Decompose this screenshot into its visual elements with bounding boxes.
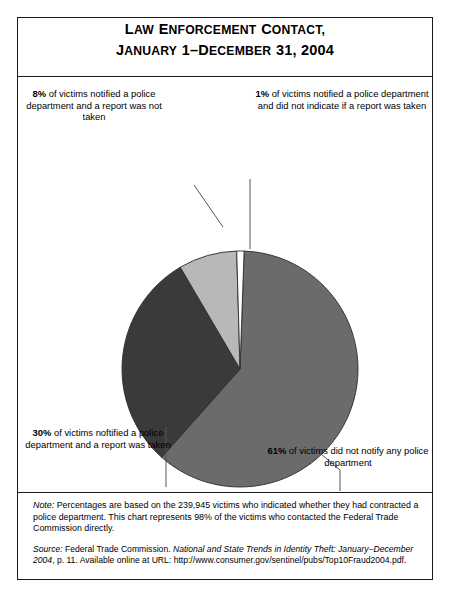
notes-block: Note: Percentages are based on the 239,9…	[33, 500, 419, 567]
source-pre-text: Federal Trade Commission.	[63, 544, 173, 554]
callout-61-percent-value: 61%	[267, 445, 286, 456]
chart-title: LAW ENFORCEMENT CONTACT, JANUARY 1–DECEM…	[18, 19, 432, 61]
callout-61-percent: 61% of victims did not notify any police…	[262, 445, 434, 468]
callout-30-percent: 30% of victims noftified a police depart…	[22, 427, 174, 450]
callout-1-percent-text: of victims notified a police department …	[258, 88, 429, 111]
callout-8-percent-value: 8%	[33, 88, 47, 99]
source-label: Source:	[33, 544, 63, 554]
chart-title-line-1: LAW ENFORCEMENT CONTACT,	[18, 19, 432, 40]
source-post-text: , p. 11. Available online at URL: http:/…	[52, 555, 406, 565]
callout-1-percent: 1% of victims notified a police departme…	[253, 88, 431, 111]
note-label: Note:	[33, 500, 54, 510]
callout-1-percent-value: 1%	[255, 88, 269, 99]
callout-8-percent: 8% of victims notified a police departme…	[24, 88, 164, 123]
callout-61-percent-text: of victims did not notify any police dep…	[286, 445, 428, 468]
source-paragraph: Source: Federal Trade Commission. Nation…	[33, 544, 419, 567]
callout-30-percent-value: 30%	[33, 427, 52, 438]
note-text: Percentages are based on the 239,945 vic…	[33, 500, 418, 533]
leader-line-8	[194, 185, 223, 227]
note-paragraph: Note: Percentages are based on the 239,9…	[33, 500, 419, 535]
callout-8-percent-text: of victims notified a police department …	[26, 88, 162, 122]
chart-title-line-2: JANUARY 1–DECEMBER 31, 2004	[18, 40, 432, 61]
notes-divider	[18, 492, 432, 493]
